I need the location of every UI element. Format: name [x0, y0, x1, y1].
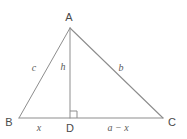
vertex-label-a: A: [65, 12, 72, 23]
triangle-figure-svg: [0, 0, 187, 139]
side-label-c: c: [32, 63, 36, 73]
side-label-a-minus-x: a − x: [107, 123, 128, 133]
vertex-label-b: B: [5, 117, 12, 128]
vertex-label-d: D: [66, 123, 74, 134]
vertex-label-c: C: [168, 117, 176, 128]
right-angle-marker-icon: [70, 111, 77, 118]
side-label-b: b: [119, 63, 124, 73]
segment-ab: [19, 28, 70, 118]
side-label-x: x: [37, 123, 41, 133]
triangle-diagram: A B C D c b h x a − x: [0, 0, 187, 139]
segment-ac: [70, 28, 163, 118]
side-label-h: h: [61, 62, 66, 72]
